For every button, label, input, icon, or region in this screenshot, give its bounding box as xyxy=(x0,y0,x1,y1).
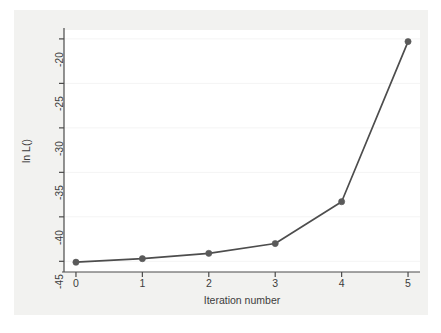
y-axis-tick-label: -45 xyxy=(54,274,65,289)
x-axis-tick-label: 0 xyxy=(73,277,79,289)
y-axis-tick-label: -40 xyxy=(54,230,65,245)
x-axis-title: Iteration number xyxy=(64,294,420,306)
x-axis-tick-label: 2 xyxy=(206,277,212,289)
y-axis-title: ln L() xyxy=(20,139,32,163)
x-axis-tick-label: 3 xyxy=(272,277,278,289)
y-axis-tick-label: -30 xyxy=(54,141,65,156)
y-axis-tick-label: -20 xyxy=(54,52,65,67)
chart-figure: -20-25-30-35-40-45 012345 ln L() Iterati… xyxy=(0,0,441,333)
y-axis-tick-label: -35 xyxy=(54,185,65,200)
plot-area xyxy=(64,30,420,272)
x-axis-tick-label: 1 xyxy=(139,277,145,289)
y-axis-tick-label: -25 xyxy=(54,96,65,111)
x-axis-tick-label: 5 xyxy=(405,277,411,289)
x-axis-tick-label: 4 xyxy=(339,277,345,289)
